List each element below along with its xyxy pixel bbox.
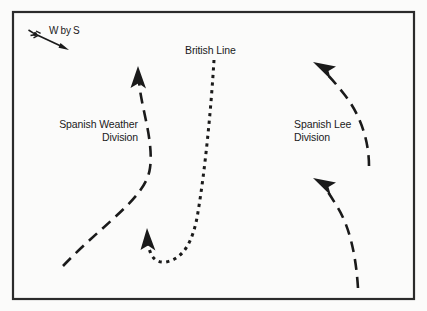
spanish-weather-division-label: Spanish Weather Division — [40, 118, 138, 143]
wind-direction-label: W by S — [49, 25, 79, 38]
arrowhead-up-icon — [141, 228, 156, 251]
british-line-track — [141, 60, 215, 262]
spanish-lee-division-lower-track — [313, 178, 358, 288]
arrowhead-up-left-icon — [313, 178, 336, 196]
arrowhead-up-left-icon — [313, 62, 336, 80]
british-line-label: British Line — [185, 44, 236, 57]
spanish-lee-division-label: Spanish Lee Division — [294, 118, 374, 143]
spanish-weather-division-track — [63, 66, 151, 266]
naval-diagram-figure: W by S British Line Spanish Weather Divi… — [0, 0, 427, 311]
spanish-lee-division-upper-track — [313, 62, 369, 166]
